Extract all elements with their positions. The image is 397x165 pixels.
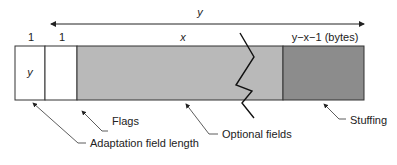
stuffing-leader — [324, 104, 346, 119]
callout-stuffing: Stuffing — [350, 114, 387, 126]
size-label-adaptation-length: 1 — [28, 31, 34, 43]
span-label: y — [196, 6, 204, 18]
size-label-flags: 1 — [59, 31, 65, 43]
adaptation-leader — [33, 103, 86, 143]
field-stuffing — [283, 46, 364, 100]
callout-flags: Flags — [112, 115, 139, 127]
size-label-stuffing: y−x−1 (bytes) — [292, 31, 359, 43]
flags-leader — [82, 111, 108, 131]
size-label-optional: x — [179, 31, 186, 43]
optional-leader — [186, 104, 218, 134]
field-flags — [45, 46, 77, 100]
callout-adaptation-field-length: Adaptation field length — [90, 137, 199, 149]
adaptation-field-diagram: y 1 1 x y−x−1 (bytes) y Flags Adaptation… — [0, 0, 397, 165]
callout-optional-fields: Optional fields — [222, 128, 292, 140]
